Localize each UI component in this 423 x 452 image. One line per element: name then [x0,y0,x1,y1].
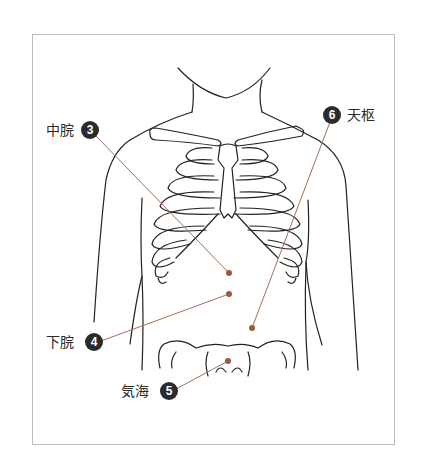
sternum [218,144,238,218]
left-clavicle [150,128,221,146]
pelvis [159,341,296,368]
point-marker-4 [226,291,232,297]
right-clavicle [235,126,304,146]
badge-5: 5 [160,382,178,400]
leader-line-6 [252,122,330,328]
badge-4: 4 [85,333,103,351]
point-marker-3 [226,270,232,276]
chin-outline [178,68,270,98]
torso-illustration [0,0,423,452]
point-marker-6 [249,325,255,331]
leader-line-3 [96,136,229,273]
leader-line-5 [176,361,228,389]
label-chukan: 中脘 [46,121,74,139]
label-tensu: 天枢 [347,106,375,124]
label-gekan: 下脘 [46,333,74,351]
point-marker-5 [225,358,231,364]
badge-6: 6 [323,106,341,124]
leader-line-4 [101,294,229,341]
label-kikai: 気海 [121,382,149,400]
badge-3: 3 [81,121,99,139]
